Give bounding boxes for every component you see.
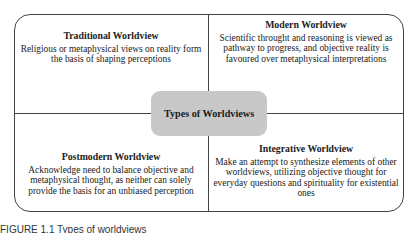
quadrant-title: Traditional Worldview <box>18 31 204 42</box>
center-label: Types of Worldviews <box>164 108 254 119</box>
quadrant-postmodern: Postmodern Worldview Acknowledge need to… <box>18 152 204 196</box>
quadrant-description: Religious or metaphysical views on reali… <box>18 44 204 65</box>
quadrant-traditional: Traditional Worldview Religious or metap… <box>18 31 204 65</box>
figure-caption: FIGURE 1.1 Types of worldviews <box>0 224 147 233</box>
quadrant-title: Integrative Worldview <box>212 144 400 155</box>
quadrant-description: Make an attempt to synthesize elements o… <box>212 157 400 199</box>
quadrant-title: Modern Worldview <box>212 20 400 31</box>
quadrant-modern: Modern Worldview Scientific throught and… <box>212 20 400 64</box>
quadrant-title: Postmodern Worldview <box>18 152 204 163</box>
quadrant-description: Scientific throught and reasoning is vie… <box>212 33 400 65</box>
quadrant-integrative: Integrative Worldview Make an attempt to… <box>212 144 400 199</box>
quadrant-description: Acknowledge need to balance objective an… <box>18 165 204 197</box>
center-node: Types of Worldviews <box>151 91 267 136</box>
